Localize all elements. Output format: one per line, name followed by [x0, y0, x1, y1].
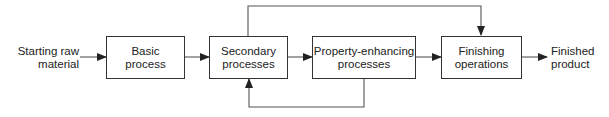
- node-label-line2: operations: [455, 58, 509, 71]
- node-label-line2: processes: [314, 58, 414, 71]
- node-label-line2: process: [125, 58, 165, 71]
- node-label-line1: Basic: [125, 45, 165, 58]
- node-label-line1: Property-enhancing: [314, 45, 414, 58]
- input-label-line2: material: [7, 58, 79, 71]
- node-finishing-operations: Finishingoperations: [441, 36, 522, 79]
- input-label: Starting raw material: [7, 45, 79, 71]
- output-label-line1: Finished: [551, 45, 609, 58]
- node-label-line2: processes: [221, 58, 276, 71]
- input-label-line1: Starting raw: [7, 45, 79, 58]
- output-label: Finished product: [551, 45, 609, 71]
- node-secondary-processes: Secondaryprocesses: [209, 36, 288, 79]
- node-label-line1: Secondary: [221, 45, 276, 58]
- arrow-bypass-top: [248, 6, 481, 36]
- node-label-line1: Finishing: [455, 45, 509, 58]
- arrow-feedback-bottom: [249, 78, 364, 107]
- output-label-line2: product: [551, 58, 609, 71]
- node-property-enhancing-processes: Property-enhancingprocesses: [312, 36, 416, 79]
- node-basic-process: Basicprocess: [106, 36, 185, 79]
